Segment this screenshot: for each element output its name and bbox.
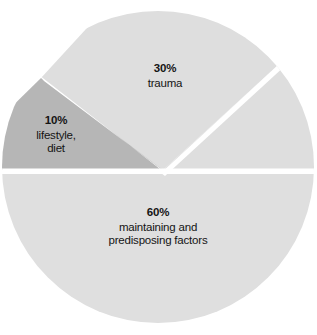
pie-label-trauma-percent: 30% [118,62,212,76]
pie-label-lifestyle-diet: 10% lifestyle, diet [12,114,100,156]
pie-chart: 30% trauma 10% lifestyle, diet 60% maint… [0,0,317,335]
pie-separator-horizontal [0,169,317,174]
pie-label-lifestyle-diet-text-line1: lifestyle, [12,129,100,143]
pie-label-lifestyle-diet-text-line2: diet [12,142,100,156]
pie-chart-svg [0,0,317,335]
pie-slice-maintaining-predisposing [0,174,317,331]
pie-label-lifestyle-diet-percent: 10% [12,114,100,128]
pie-label-maintaining-predisposing-text-line2: predisposing factors [58,234,258,248]
pie-label-trauma: 30% trauma [118,62,212,90]
pie-label-maintaining-predisposing-percent: 60% [58,206,258,220]
pie-label-maintaining-predisposing: 60% maintaining and predisposing factors [58,206,258,248]
pie-label-maintaining-predisposing-text-line1: maintaining and [58,221,258,235]
pie-label-trauma-text: trauma [118,77,212,91]
